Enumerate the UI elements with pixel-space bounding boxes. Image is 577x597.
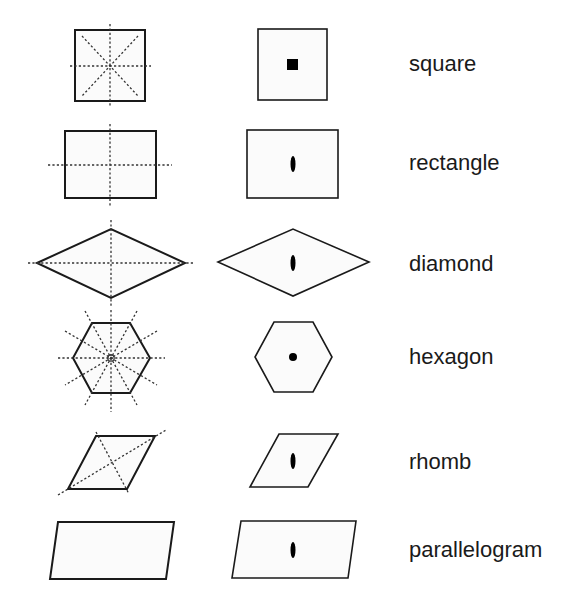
hexagon-symmetry-lines: [58, 310, 165, 412]
lens-rotation-mark: [291, 453, 296, 469]
square-rotation-mark: [287, 59, 298, 70]
label-rhomb: rhomb: [409, 451, 471, 473]
label-parallelogram: parallelogram: [409, 539, 542, 561]
label-rectangle: rectangle: [409, 152, 500, 174]
rhomb-rotation-center: [250, 434, 338, 487]
shape-symmetry-diagram: [0, 0, 577, 597]
lens-rotation-mark: [291, 542, 296, 558]
rectangle-symmetry-lines: [48, 124, 172, 206]
square-rotation-center: [258, 29, 327, 100]
lens-rotation-mark: [291, 156, 296, 172]
diamond-symmetry-lines: [28, 220, 193, 306]
lens-rotation-mark: [291, 255, 296, 271]
diamond-rotation-center: [218, 229, 369, 296]
label-square: square: [409, 53, 476, 75]
parallelogram-rotation-center: [232, 521, 356, 578]
label-hexagon: hexagon: [409, 346, 493, 368]
dot-rotation-mark: [289, 353, 297, 361]
parallelogram-symmetry-lines: [50, 522, 174, 579]
label-diamond: diamond: [409, 253, 493, 275]
rectangle-rotation-center: [247, 130, 338, 198]
hexagon-rotation-center: [255, 322, 332, 392]
square-symmetry-lines: [70, 24, 151, 107]
rhomb-symmetry-lines: [58, 430, 166, 495]
